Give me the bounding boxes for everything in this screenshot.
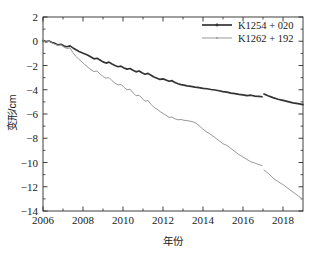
- y-axis-title: 变形/cm: [6, 94, 18, 131]
- legend-label: K1254 + 020: [238, 20, 294, 31]
- legend-marker: [216, 24, 219, 27]
- y-tick-label: −2: [26, 60, 38, 72]
- chart-figure: 2006200820102012201420162018 20−2−4−6−8−…: [0, 0, 313, 258]
- y-tick-label: −10: [21, 157, 39, 169]
- y-tick-label: −14: [21, 205, 39, 217]
- y-tick-label: 2: [33, 11, 39, 23]
- x-tick-label: 2008: [72, 214, 95, 226]
- x-tick-label: 2016: [232, 214, 255, 226]
- y-tick-label: −12: [21, 181, 38, 193]
- x-tick-label: 2018: [272, 214, 295, 226]
- x-axis-title: 年份: [163, 235, 184, 247]
- legend-label: K1262 + 192: [238, 33, 294, 44]
- legend-marker: [216, 37, 218, 39]
- x-tick-label: 2010: [112, 214, 135, 226]
- y-tick-label: −4: [26, 84, 38, 96]
- x-tick-label: 2012: [152, 214, 174, 226]
- line-chart: 2006200820102012201420162018 20−2−4−6−8−…: [0, 0, 313, 258]
- y-tick-label: −8: [26, 132, 38, 144]
- y-tick-label: −6: [26, 108, 38, 120]
- y-tick-label: 0: [33, 35, 39, 47]
- x-tick-label: 2014: [192, 214, 215, 226]
